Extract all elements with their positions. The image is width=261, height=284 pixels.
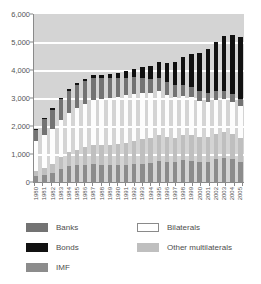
bar-segment-other-multilaterals: [148, 138, 152, 163]
bar-segment-imf: [99, 165, 103, 182]
bar-segment-banks: [181, 85, 185, 96]
x-axis-tick-mark: [159, 182, 160, 186]
bar-1984: [67, 89, 71, 182]
bar-segment-banks: [34, 130, 38, 142]
bar-segment-other-multilaterals: [173, 138, 177, 163]
bar-segment-bilaterals: [42, 135, 46, 168]
bar-segment-banks: [91, 78, 95, 100]
bar-segment-bonds: [124, 71, 128, 78]
bar-segment-other-multilaterals: [206, 137, 210, 162]
bar-1999: [189, 54, 193, 182]
bar-segment-bilaterals: [67, 113, 71, 152]
x-axis-tick-label: 1985: [75, 187, 79, 213]
bar-2004: [230, 35, 234, 182]
x-axis-tick-label: 1986: [83, 187, 87, 213]
x-axis-tick-label: 1999: [189, 187, 193, 213]
bar-1993: [140, 67, 144, 182]
x-axis-tick-mark: [51, 182, 52, 186]
y-axis-tick-label: 5,000: [11, 38, 30, 47]
bar-segment-banks: [67, 91, 71, 113]
x-axis-tick-label: 2005: [238, 187, 242, 213]
x-axis-tick-label: 1994: [148, 187, 152, 213]
bar-segment-other-multilaterals: [108, 145, 112, 165]
x-axis-tick-mark: [84, 182, 85, 186]
bar-segment-imf: [238, 162, 242, 182]
x-axis-tick-mark: [42, 182, 43, 186]
bar-segment-bilaterals: [132, 94, 136, 141]
bar-segment-imf: [124, 165, 128, 182]
bar-segment-other-multilaterals: [42, 168, 46, 175]
bar-segment-bonds: [140, 67, 144, 78]
legend-label: Bilaterals: [167, 223, 200, 232]
legend-item-bilaterals[interactable]: Bilaterals: [137, 217, 232, 237]
legend-label: Other multilaterals: [167, 243, 232, 252]
bar-2002: [214, 42, 218, 182]
bar-segment-bonds: [181, 57, 185, 84]
bar-segment-bilaterals: [50, 129, 54, 164]
bar-segment-banks: [165, 82, 169, 94]
bar-1980: [34, 129, 38, 182]
bar-segment-other-multilaterals: [83, 147, 87, 164]
bar-segment-other-multilaterals: [181, 135, 185, 160]
x-axis-tick-mark: [192, 182, 193, 186]
y-axis-tick-mark: [30, 70, 33, 71]
bar-segment-other-multilaterals: [67, 152, 71, 166]
bar-segment-other-multilaterals: [230, 134, 234, 159]
x-axis-tick-label: 2004: [230, 187, 234, 213]
bar-segment-bilaterals: [189, 97, 193, 135]
bar-1986: [83, 79, 87, 182]
bar-1995: [157, 62, 161, 182]
bar-segment-bonds: [165, 63, 169, 82]
bar-1997: [173, 62, 177, 182]
x-axis-tick-label: 1996: [165, 187, 169, 213]
legend-item-bonds[interactable]: Bonds: [26, 237, 79, 257]
bar-segment-imf: [67, 166, 71, 182]
bar-segment-imf: [197, 162, 201, 182]
bar-segment-banks: [238, 99, 242, 107]
bar-segment-imf: [83, 165, 87, 182]
x-axis-tick-mark: [125, 182, 126, 186]
bar-segment-bilaterals: [59, 120, 63, 157]
bar-segment-imf: [75, 165, 79, 182]
bar-segment-banks: [75, 85, 79, 108]
bar-segment-imf: [116, 165, 120, 182]
legend-item-banks[interactable]: Banks: [26, 217, 79, 237]
legend-item-imf[interactable]: IMF: [26, 257, 79, 277]
bar-1982: [50, 108, 54, 182]
bar-2000: [197, 53, 201, 182]
bar-segment-bilaterals: [148, 93, 152, 138]
y-axis-tick-label: 3,000: [11, 94, 30, 103]
bar-segment-imf: [230, 159, 234, 182]
bar-segment-imf: [222, 158, 226, 182]
x-axis-tick-label: 1991: [124, 187, 128, 213]
bar-segment-bonds: [214, 42, 218, 91]
y-axis-tick-mark: [30, 14, 33, 15]
bar-segment-banks: [59, 99, 63, 120]
bar-1988: [99, 75, 103, 182]
x-axis-tick-mark: [167, 182, 168, 186]
bar-segment-banks: [197, 91, 201, 101]
bar-segment-banks: [214, 91, 218, 100]
chart-figure: 01,0002,0003,0004,0005,0006,000 19801981…: [0, 0, 261, 284]
x-axis-tick-label: 1987: [91, 187, 95, 213]
bar-segment-banks: [206, 93, 210, 103]
bar-segment-banks: [99, 78, 103, 99]
bar-1994: [148, 66, 152, 182]
bar-segment-imf: [42, 175, 46, 182]
bar-segment-other-multilaterals: [140, 139, 144, 164]
legend-item-other-multilaterals[interactable]: Other multilaterals: [137, 237, 232, 257]
legend-label: Banks: [56, 223, 78, 232]
x-axis-tick-label: 1981: [42, 187, 46, 213]
bar-segment-banks: [124, 78, 128, 95]
bar-segment-other-multilaterals: [59, 157, 63, 169]
x-axis-labels: 1980198119821983198419851986198719881989…: [33, 187, 244, 213]
bar-segment-bonds: [157, 62, 161, 78]
bar-segment-bilaterals: [206, 102, 210, 137]
x-axis-tick-mark: [92, 182, 93, 186]
bar-segment-bilaterals: [75, 108, 79, 149]
x-axis-tick-label: 1982: [50, 187, 54, 213]
y-axis-tick-mark: [30, 98, 33, 99]
bar-segment-bonds: [197, 53, 201, 91]
bar-segment-bilaterals: [124, 95, 128, 143]
bar-segment-imf: [148, 163, 152, 182]
